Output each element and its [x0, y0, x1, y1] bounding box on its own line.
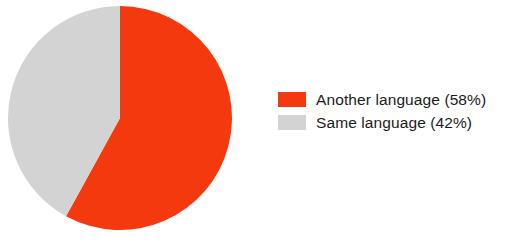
legend-label-another-language: Another language (58%) — [316, 91, 486, 108]
chart-legend: Another language (58%) Same language (42… — [278, 88, 522, 134]
pie-chart-plot-area — [0, 0, 248, 244]
legend-item-another-language: Another language (58%) — [278, 88, 522, 111]
pie-chart-svg — [0, 0, 248, 244]
legend-label-same-language: Same language (42%) — [316, 114, 472, 131]
pie-chart-figure: Another language (58%) Same language (42… — [0, 0, 524, 244]
legend-swatch-same-language — [278, 115, 306, 130]
pie-slices — [8, 6, 232, 230]
legend-swatch-another-language — [278, 92, 306, 107]
legend-item-same-language: Same language (42%) — [278, 111, 522, 134]
